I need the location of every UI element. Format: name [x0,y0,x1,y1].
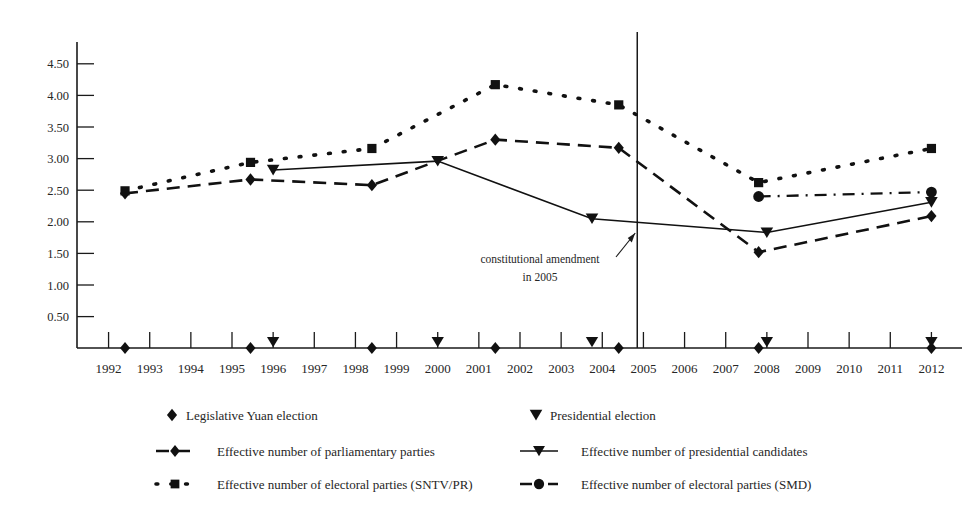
triangle-down-marker [586,337,598,347]
legend-label: Effective number of presidential candida… [581,444,807,459]
diamond-marker [367,179,377,191]
legend-item: Effective number of electoral parties (S… [520,477,811,492]
series-square [120,80,936,195]
x-tick-label: 1994 [178,361,205,376]
x-tick-label: 1992 [96,361,122,376]
square-marker [120,186,129,195]
series-line [125,85,931,191]
square-marker [367,144,376,153]
y-tick-label: 0.50 [47,310,69,324]
x-tick-label: 2000 [425,361,451,376]
diamond-marker [754,342,764,354]
data-series-group [120,80,938,258]
y-tick-label: 2.00 [47,215,69,229]
circle-marker [926,187,937,198]
diamond-marker [170,445,180,457]
x-tick-label: 2002 [507,361,533,376]
x-tick-label: 2006 [672,361,699,376]
y-tick-label: 1.00 [47,279,69,293]
y-tick-label: 1.50 [47,247,69,261]
y-tick-label: 3.50 [47,121,69,135]
chart-annotation: constitutional amendmentin 2005 [480,233,635,283]
diamond-marker [245,173,255,185]
x-tick-label: 2008 [754,361,780,376]
annotation-line-1: constitutional amendment [480,253,600,265]
x-tick-label: 2001 [466,361,492,376]
triangle-down-marker [925,337,937,347]
legend-label: Legislative Yuan election [186,408,318,423]
x-tick-label: 1997 [301,361,328,376]
legend-item: Presidential election [530,408,657,423]
y-tick-label: 4.00 [47,89,69,103]
diamond-marker [614,342,624,354]
chart-legend: Legislative Yuan electionPresidential el… [156,408,811,492]
diamond-marker [490,133,500,145]
triangle-down-marker [432,337,444,347]
diamond-marker [120,342,130,354]
square-marker [754,178,763,187]
legend-item: Effective number of parliamentary partie… [156,444,435,459]
legend-label: Presidential election [550,408,656,423]
triangle-down-marker [267,337,279,347]
x-tick-label: 1996 [260,361,287,376]
y-tick-label: 2.50 [47,184,69,198]
x-tick-label: 1998 [342,361,368,376]
election-event-markers [120,337,938,354]
x-tick-label: 1993 [137,361,163,376]
legend-item: Effective number of presidential candida… [520,444,807,459]
diamond-marker [246,342,256,354]
x-tick-label: 2009 [795,361,821,376]
x-tick-label: 2003 [548,361,574,376]
triangle-down-marker [761,337,773,347]
x-tick-label: 2007 [713,361,740,376]
annotation-line-2: in 2005 [523,271,558,283]
diamond-marker [926,210,936,222]
x-tick-label: 2004 [589,361,616,376]
diamond-marker [490,342,500,354]
square-marker [927,144,936,153]
square-marker [491,80,500,89]
series-line [759,192,932,196]
x-axis: 1992199319941995199619971998199920002001… [77,332,962,376]
x-tick-label: 1995 [219,361,245,376]
diamond-marker [614,142,624,154]
legend-label: Effective number of parliamentary partie… [217,444,435,459]
x-tick-label: 2012 [918,361,944,376]
election-parties-line-chart: 0.501.001.502.002.503.003.504.004.50 199… [0,0,972,509]
series-circle [753,187,937,202]
series-line [273,161,931,232]
y-axis: 0.501.001.502.002.503.003.504.004.50 [47,42,94,348]
x-tick-label: 2011 [878,361,904,376]
series-diamond [120,133,937,258]
chart-container: 0.501.001.502.002.503.003.504.004.50 199… [0,0,972,509]
legend-item: Effective number of electoral parties (S… [156,477,473,492]
legend-item: Legislative Yuan election [167,408,318,423]
x-tick-label: 2010 [836,361,862,376]
triangle-down-marker [530,410,543,421]
square-marker [246,158,255,167]
legend-label: Effective number of electoral parties (S… [581,477,811,492]
legend-label: Effective number of electoral parties (S… [217,477,473,492]
diamond-marker [754,246,764,258]
square-marker [614,100,623,109]
diamond-marker [167,409,177,421]
y-tick-label: 4.50 [47,57,69,71]
x-tick-label: 2005 [630,361,656,376]
x-tick-label: 1999 [384,361,410,376]
series-line [125,140,931,253]
circle-marker [753,191,764,202]
y-tick-label: 3.00 [47,152,69,166]
diamond-marker [367,342,377,354]
circle-marker [534,479,544,489]
square-marker [171,480,180,489]
